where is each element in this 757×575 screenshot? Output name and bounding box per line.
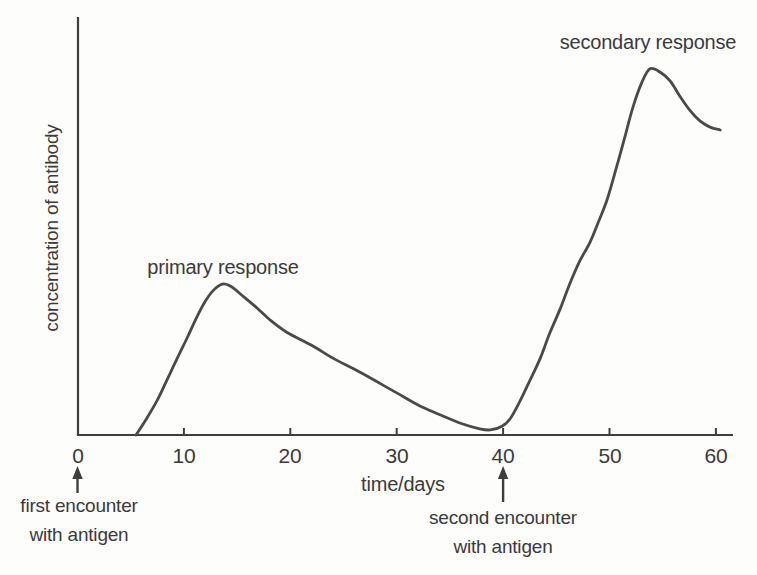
x-tick-label-10: 10 (173, 444, 196, 468)
first-encounter-line2: with antigen (20, 520, 137, 549)
second-encounter-line1: second encounter (429, 503, 577, 532)
first-encounter-label: first encounter with antigen (20, 491, 137, 549)
x-tick-label-60: 60 (705, 444, 728, 468)
x-axis-title: time/days (361, 473, 445, 496)
x-tick-label-50: 50 (599, 444, 622, 468)
y-axis-title: concentration of antibody (41, 124, 63, 331)
x-tick-label-40: 40 (492, 444, 515, 468)
second-encounter-line2: with antigen (429, 532, 577, 561)
second-encounter-label: second encounter with antigen (429, 503, 577, 561)
immune-response-figure: concentration of antibody time/days 0 10… (0, 0, 757, 575)
antibody-concentration-curve (136, 68, 720, 435)
primary-response-label: primary response (147, 256, 298, 279)
x-tick-label-20: 20 (279, 444, 302, 468)
x-tick-label-0: 0 (72, 444, 83, 468)
first-encounter-line1: first encounter (20, 491, 137, 520)
x-tick-label-30: 30 (386, 444, 409, 468)
secondary-response-label: secondary response (560, 31, 737, 54)
